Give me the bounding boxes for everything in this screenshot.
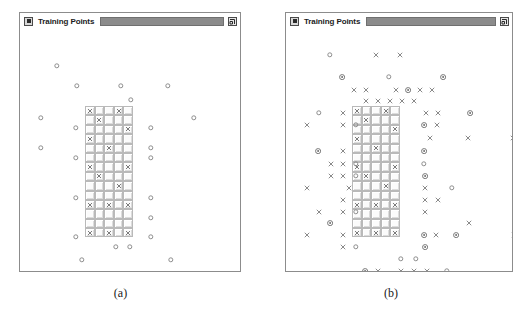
grid-cell[interactable]	[114, 153, 124, 162]
grid-cell[interactable]	[381, 144, 391, 153]
grid-cell[interactable]	[123, 219, 133, 228]
grid-cell[interactable]	[123, 209, 133, 218]
grid-cell[interactable]	[123, 134, 133, 143]
grid-cell[interactable]	[104, 191, 114, 200]
grid-cell-marked[interactable]	[85, 162, 95, 171]
grid-cell-marked[interactable]	[390, 125, 400, 134]
grid-cell[interactable]	[104, 209, 114, 218]
grid-cell[interactable]	[85, 125, 95, 134]
grid-cell-marked[interactable]	[390, 228, 400, 237]
grid-cell[interactable]	[371, 209, 381, 218]
grid-cell-marked[interactable]	[371, 144, 381, 153]
grid-cell-marked[interactable]	[85, 200, 95, 209]
grid-cell[interactable]	[390, 115, 400, 124]
grid-cell[interactable]	[352, 191, 362, 200]
training-grid-a[interactable]	[85, 106, 133, 237]
grid-cell-marked[interactable]	[85, 228, 95, 237]
grid-cell[interactable]	[362, 153, 372, 162]
grid-cell[interactable]	[390, 191, 400, 200]
grid-cell[interactable]	[95, 134, 105, 143]
grid-cell-marked[interactable]	[114, 181, 124, 190]
grid-cell[interactable]	[114, 219, 124, 228]
grid-cell[interactable]	[85, 181, 95, 190]
grid-cell[interactable]	[85, 172, 95, 181]
grid-cell-marked[interactable]	[114, 106, 124, 115]
grid-cell[interactable]	[352, 219, 362, 228]
grid-cell[interactable]	[114, 228, 124, 237]
window-titlebar[interactable]: Training Points	[20, 13, 240, 28]
grid-cell[interactable]	[362, 106, 372, 115]
grid-cell-marked[interactable]	[371, 228, 381, 237]
grid-cell[interactable]	[85, 209, 95, 218]
grid-cell[interactable]	[123, 172, 133, 181]
grid-cell[interactable]	[104, 219, 114, 228]
grid-cell-marked[interactable]	[123, 200, 133, 209]
grid-cell[interactable]	[381, 134, 391, 143]
grid-cell-marked[interactable]	[123, 125, 133, 134]
grid-cell[interactable]	[95, 125, 105, 134]
grid-cell[interactable]	[85, 191, 95, 200]
grid-cell-marked[interactable]	[123, 162, 133, 171]
grid-cell[interactable]	[114, 200, 124, 209]
grid-cell[interactable]	[352, 181, 362, 190]
grid-cell[interactable]	[114, 134, 124, 143]
grid-cell[interactable]	[114, 162, 124, 171]
grid-cell[interactable]	[371, 191, 381, 200]
grid-cell[interactable]	[123, 191, 133, 200]
grid-cell[interactable]	[362, 228, 372, 237]
grid-cell[interactable]	[381, 200, 391, 209]
grid-cell[interactable]	[381, 172, 391, 181]
grid-cell[interactable]	[390, 153, 400, 162]
grid-cell[interactable]	[390, 172, 400, 181]
grid-cell[interactable]	[362, 125, 372, 134]
grid-cell-marked[interactable]	[104, 228, 114, 237]
restore-window-icon[interactable]	[228, 17, 237, 26]
grid-cell[interactable]	[371, 219, 381, 228]
grid-cell[interactable]	[371, 115, 381, 124]
grid-cell[interactable]	[371, 125, 381, 134]
grid-cell[interactable]	[95, 219, 105, 228]
grid-cell[interactable]	[95, 144, 105, 153]
grid-cell[interactable]	[123, 153, 133, 162]
grid-cell[interactable]	[114, 125, 124, 134]
grid-cell[interactable]	[114, 115, 124, 124]
grid-cell[interactable]	[390, 219, 400, 228]
grid-cell[interactable]	[104, 172, 114, 181]
grid-cell[interactable]	[123, 181, 133, 190]
grid-cell[interactable]	[381, 191, 391, 200]
grid-cell[interactable]	[123, 144, 133, 153]
grid-cell-marked[interactable]	[352, 106, 362, 115]
grid-cell[interactable]	[371, 181, 381, 190]
grid-cell[interactable]	[104, 106, 114, 115]
grid-cell[interactable]	[95, 106, 105, 115]
grid-cell[interactable]	[114, 144, 124, 153]
grid-cell[interactable]	[362, 144, 372, 153]
grid-cell[interactable]	[362, 200, 372, 209]
grid-cell[interactable]	[123, 106, 133, 115]
grid-cell[interactable]	[95, 181, 105, 190]
grid-cell[interactable]	[95, 228, 105, 237]
grid-cell-marked[interactable]	[352, 134, 362, 143]
training-grid-b[interactable]	[352, 106, 400, 237]
grid-cell[interactable]	[362, 181, 372, 190]
grid-cell[interactable]	[381, 125, 391, 134]
restore-window-icon[interactable]	[500, 17, 509, 26]
grid-cell-marked[interactable]	[371, 200, 381, 209]
grid-cell-marked[interactable]	[85, 106, 95, 115]
grid-cell[interactable]	[114, 191, 124, 200]
grid-cell[interactable]	[381, 162, 391, 171]
grid-cell[interactable]	[104, 134, 114, 143]
grid-cell[interactable]	[85, 115, 95, 124]
grid-cell[interactable]	[114, 172, 124, 181]
grid-cell[interactable]	[362, 191, 372, 200]
grid-cell[interactable]	[95, 209, 105, 218]
grid-cell-marked[interactable]	[95, 115, 105, 124]
grid-cell[interactable]	[371, 172, 381, 181]
grid-cell-marked[interactable]	[95, 172, 105, 181]
grid-cell[interactable]	[371, 134, 381, 143]
grid-cell-marked[interactable]	[104, 200, 114, 209]
grid-cell[interactable]	[104, 125, 114, 134]
grid-cell[interactable]	[390, 144, 400, 153]
grid-cell[interactable]	[104, 162, 114, 171]
grid-cell[interactable]	[123, 115, 133, 124]
